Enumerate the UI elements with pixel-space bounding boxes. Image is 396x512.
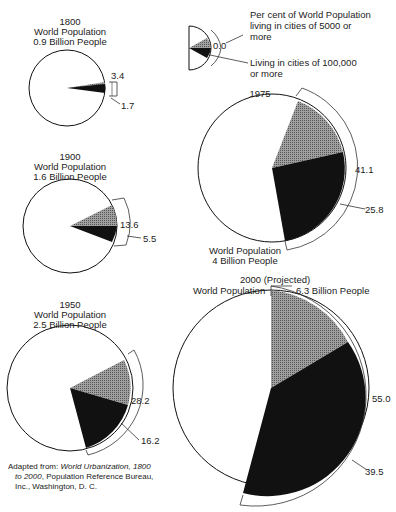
pop-1800: 0.9 Billion People [20, 36, 120, 47]
value-1975-100k: 25.8 [365, 204, 384, 215]
legend-5000-line2: living in cities of 5000 or [250, 20, 351, 31]
pie-1800 [29, 50, 120, 126]
pop-label-2000: World Population [193, 285, 265, 296]
chart-canvas [0, 0, 396, 512]
source-line2: to 2000, Population Reference Bureau, [15, 472, 153, 482]
legend-100k-line1: Living in cities of 100,000 [250, 57, 357, 68]
legend-5000-line3: more [250, 31, 272, 42]
pie-1950 [7, 325, 143, 455]
value-1800-5000: 3.4 [111, 70, 124, 81]
pop-1900: 1.6 Billion People [20, 171, 120, 182]
value-2000-5000: 55.0 [372, 393, 391, 404]
value-1975-5000: 41.1 [355, 164, 374, 175]
value-1950-100k: 16.2 [141, 435, 160, 446]
source-line1: Adapted from: World Urbanization, 1800 [8, 462, 151, 472]
value-1950-5000: 28.2 [131, 395, 150, 406]
value-2000-100k: 39.5 [365, 466, 384, 477]
pop-1950: 2.5 Billion People [20, 319, 120, 330]
legend-sample-value: 0.0 [213, 40, 226, 51]
value-1900-5000: 13.6 [120, 219, 139, 230]
pop-1975: 4 Billion People [200, 255, 290, 266]
pie-1975 [198, 88, 365, 250]
pie-2000 [173, 286, 369, 506]
value-1900-100k: 5.5 [143, 233, 156, 244]
year-2000: 2000 (Projected) [230, 274, 320, 285]
source-line3: Inc., Washington, D. C. [15, 482, 97, 492]
pop-2000: 6.3 Billion People [296, 285, 369, 296]
legend-100k-line2: or more [250, 68, 283, 79]
value-1800-100k: 1.7 [121, 100, 134, 111]
legend-5000-line1: Per cent of World Population [250, 9, 371, 20]
year-1975: 1975 [240, 88, 280, 99]
